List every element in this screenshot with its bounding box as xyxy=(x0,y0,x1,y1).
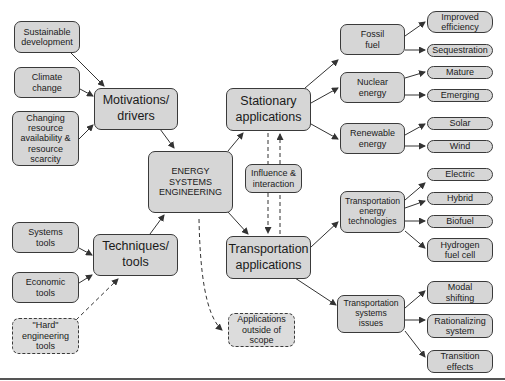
node-label: Biofuel xyxy=(446,216,474,226)
node-label: Sequestration xyxy=(432,45,488,55)
node-label: Hydrogen fuel cell xyxy=(440,240,479,261)
node-solar: Solar xyxy=(427,117,493,130)
node-label: Renewable energy xyxy=(350,128,395,149)
node-label: Applications outside of scope xyxy=(237,314,286,345)
node-applications-outside-scope: Applications outside of scope xyxy=(228,313,295,347)
diagram-canvas: Sustainable development Climate change C… xyxy=(0,0,505,381)
node-label: Electric xyxy=(445,169,475,179)
node-label: Climate change xyxy=(32,72,63,93)
node-climate-change: Climate change xyxy=(14,67,80,98)
node-improved-efficiency: Improved efficiency xyxy=(427,11,493,33)
bottom-rule xyxy=(0,378,505,380)
node-label: Hybrid xyxy=(447,193,473,203)
node-label: Mature xyxy=(446,67,474,77)
node-label: Modal shifting xyxy=(446,282,475,303)
node-nuclear-energy: Nuclear energy xyxy=(340,72,405,103)
node-label: Sustainable development xyxy=(21,27,73,48)
node-energy-systems-engineering: ENERGY SYSTEMS ENGINEERING xyxy=(148,151,233,213)
node-label: Systems tools xyxy=(28,227,63,248)
node-label: Rationalizing system xyxy=(434,316,486,337)
node-label: Solar xyxy=(449,118,470,128)
node-transportation-applications: Transportation applications xyxy=(226,236,311,279)
node-techniques-tools: Techniques/ tools xyxy=(93,234,178,276)
node-changing-resource: Changing resource availability & resourc… xyxy=(12,111,79,166)
node-label: Transportation energy technologies xyxy=(345,197,400,227)
node-label: Emerging xyxy=(441,90,480,100)
node-label: Improved efficiency xyxy=(441,12,479,33)
node-label: Transportation applications xyxy=(228,242,308,273)
node-label: Changing resource availability & resourc… xyxy=(20,113,70,165)
node-label: Economic tools xyxy=(26,277,66,298)
node-motivations-drivers: Motivations/ drivers xyxy=(94,88,178,130)
node-modal-shifting: Modal shifting xyxy=(427,281,493,304)
node-rationalizing-system: Rationalizing system xyxy=(427,314,493,338)
node-label: ENERGY SYSTEMS ENGINEERING xyxy=(159,166,222,197)
node-transportation-systems-issues: Transportation systems issues xyxy=(337,295,405,333)
node-mature: Mature xyxy=(427,66,493,79)
node-wind: Wind xyxy=(427,140,493,153)
node-label: Transportation systems issues xyxy=(343,299,398,329)
node-transportation-energy-technologies: Transportation energy technologies xyxy=(340,191,405,233)
node-label: Motivations/ drivers xyxy=(103,93,170,124)
node-fossil-fuel: Fossil fuel xyxy=(340,24,405,55)
node-label: "Hard" engineering tools xyxy=(22,320,69,351)
node-economic-tools: Economic tools xyxy=(12,272,79,303)
node-renewable-energy: Renewable energy xyxy=(340,123,405,154)
node-sequestration: Sequestration xyxy=(427,44,493,57)
node-label: Nuclear energy xyxy=(357,77,388,98)
node-stationary-applications: Stationary applications xyxy=(226,88,311,131)
node-hard-engineering-tools: "Hard" engineering tools xyxy=(12,318,79,354)
node-sustainable-development: Sustainable development xyxy=(14,21,80,53)
node-label: Wind xyxy=(450,141,471,151)
node-label: Transition effects xyxy=(440,351,479,372)
node-label: Techniques/ tools xyxy=(102,239,169,270)
node-electric: Electric xyxy=(427,168,493,181)
node-label: Stationary applications xyxy=(235,94,301,125)
node-hybrid: Hybrid xyxy=(427,192,493,205)
node-hydrogen-fuel-cell: Hydrogen fuel cell xyxy=(427,238,493,262)
node-transition-effects: Transition effects xyxy=(427,350,493,373)
node-emerging: Emerging xyxy=(427,89,493,102)
node-label: Fossil fuel xyxy=(361,29,385,50)
node-systems-tools: Systems tools xyxy=(12,222,79,253)
node-label: Influence & interaction xyxy=(251,168,296,189)
node-influence-interaction: Influence & interaction xyxy=(245,164,302,193)
node-biofuel: Biofuel xyxy=(427,215,493,228)
